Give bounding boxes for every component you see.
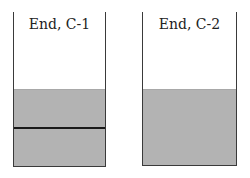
container-c2-right-wall xyxy=(236,12,237,166)
container-c1-right-wall xyxy=(105,12,106,167)
container-c1-divider-line xyxy=(14,127,105,129)
container-c1-label: End, C-1 xyxy=(13,16,106,32)
container-c2-floor xyxy=(142,165,237,166)
container-c2-fill xyxy=(143,89,236,165)
container-c2: End, C-2 xyxy=(142,12,237,166)
container-c1: End, C-1 xyxy=(13,12,106,167)
container-c2-label: End, C-2 xyxy=(142,16,237,32)
container-c1-floor xyxy=(13,166,106,167)
